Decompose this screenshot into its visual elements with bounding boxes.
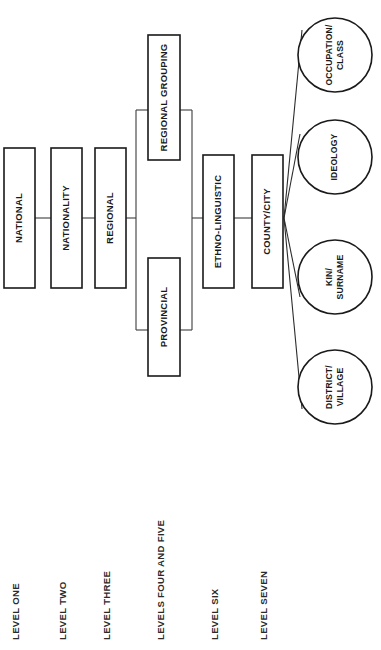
fanout-group xyxy=(284,30,302,409)
node-ethno-linguistic[interactable]: ETHNO-LINGUISTIC xyxy=(203,155,234,288)
node-national-label: NATIONAL xyxy=(13,193,24,243)
node-nationality-label: NATIONALITY xyxy=(60,185,71,251)
node-county-city-label: COUNTY/CITY xyxy=(261,188,272,255)
level-label-six: LEVEL SIX xyxy=(209,588,220,640)
node-district-village-label-line2: VILLAGE xyxy=(335,368,345,407)
level-label-seven: LEVEL SEVEN xyxy=(258,571,269,640)
diagram-canvas: NATIONAL NATIONALITY REGIONAL REGIONAL G… xyxy=(0,0,381,650)
node-national[interactable]: NATIONAL xyxy=(4,148,35,288)
node-district-village[interactable]: DISTRICT/ VILLAGE xyxy=(298,350,372,424)
node-kin-surname[interactable]: KIN/ SURNAME xyxy=(298,240,372,314)
node-regional-label: REGIONAL xyxy=(104,192,115,244)
level-label-one: LEVEL ONE xyxy=(10,583,21,640)
node-kin-surname-label-line2: SURNAME xyxy=(335,255,345,300)
node-provincial[interactable]: PROVINCIAL xyxy=(148,258,180,376)
node-kin-surname-label-line1: KIN/ xyxy=(324,268,334,286)
node-regional[interactable]: REGIONAL xyxy=(95,148,126,288)
node-ethno-linguistic-label: ETHNO-LINGUISTIC xyxy=(212,175,223,268)
node-county-city[interactable]: COUNTY/CITY xyxy=(252,155,283,288)
level-label-group: LEVEL ONE LEVEL TWO LEVEL THREE LEVELS F… xyxy=(10,519,269,640)
node-district-village-label-line1: DISTRICT/ xyxy=(324,365,334,409)
node-ideology-label: IDEOLOGY xyxy=(329,133,339,180)
level-label-four-and-five: LEVELS FOUR AND FIVE xyxy=(155,519,166,640)
node-nationality[interactable]: NATIONALITY xyxy=(51,148,82,288)
level-label-three: LEVEL THREE xyxy=(101,570,112,640)
node-provincial-label: PROVINCIAL xyxy=(158,287,169,348)
level-label-two: LEVEL TWO xyxy=(57,581,68,640)
node-regional-grouping[interactable]: REGIONAL GROUPING xyxy=(148,35,180,160)
fan-line-kin-surname xyxy=(284,218,300,297)
node-regional-grouping-label: REGIONAL GROUPING xyxy=(158,44,169,152)
node-occupation-class-label-line2: CLASS xyxy=(335,40,345,70)
fan-line-ideology xyxy=(284,134,300,218)
node-ideology[interactable]: IDEOLOGY xyxy=(298,120,372,194)
node-occupation-class-label-line1: OCCUPATION/ xyxy=(324,24,334,85)
node-occupation-class[interactable]: OCCUPATION/ CLASS xyxy=(298,18,372,92)
diagram-svg: NATIONAL NATIONALITY REGIONAL REGIONAL G… xyxy=(0,0,381,650)
